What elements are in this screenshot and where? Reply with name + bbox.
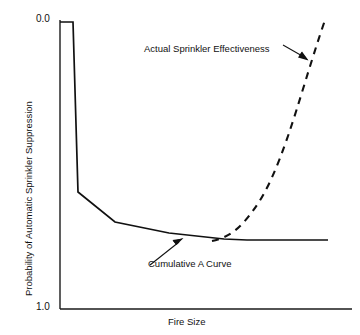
annotation-label-actual-sprinkler-effectiveness: Actual Sprinkler Effectiveness (144, 44, 270, 54)
x-axis-title: Fire Size (168, 317, 205, 327)
y-axis-tick-label-bottom: 1.0 (36, 302, 50, 312)
y-axis-title: Probability of Automatic Sprinkler Suppr… (24, 101, 34, 296)
chart-figure: 0.0 1.0 Probability of Automatic Sprinkl… (0, 0, 360, 335)
annotation-arrow-actual-sprinkler-effectiveness (283, 45, 309, 61)
y-axis-tick-label-top: 0.0 (36, 14, 50, 24)
series-cumulative-a-curve (60, 22, 328, 240)
annotation-label-cumulative-a-curve: Cumulative A Curve (148, 259, 231, 269)
